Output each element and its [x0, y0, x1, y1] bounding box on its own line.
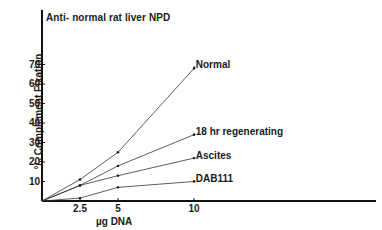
- x-tick-label: 2.5: [65, 203, 95, 214]
- series-line: [42, 158, 194, 201]
- y-tick-label: 20: [20, 156, 40, 167]
- complement-fixation-chart: Anti- normal rat liver NPD °/₀ Complemen…: [0, 0, 382, 230]
- data-point: [79, 184, 81, 186]
- data-point: [117, 151, 119, 153]
- y-tick-label: 40: [20, 117, 40, 128]
- series-line: [42, 68, 194, 201]
- series-label-ascites: .Ascites: [193, 150, 231, 161]
- y-tick-label: 70: [20, 59, 40, 70]
- data-point: [79, 197, 81, 199]
- y-tick-label: 60: [20, 78, 40, 89]
- series-label-normal: .Normal: [193, 59, 230, 70]
- y-tick-label: 10: [20, 176, 40, 187]
- series-label-dab111: .DAB111: [193, 173, 233, 184]
- series-label-18hr-regenerating: .18 hr regenerating: [193, 126, 283, 137]
- data-point: [79, 178, 81, 180]
- y-tick-label: 30: [20, 137, 40, 148]
- y-tick-label: 50: [20, 98, 40, 109]
- plot-area: [0, 0, 382, 230]
- data-point: [117, 165, 119, 167]
- data-point: [117, 174, 119, 176]
- x-tick-label: 10: [179, 203, 209, 214]
- x-tick-label: 5: [103, 203, 133, 214]
- series-line: [42, 135, 194, 201]
- data-point: [117, 186, 119, 188]
- chart-title: Anti- normal rat liver NPD: [46, 12, 170, 23]
- x-axis-label: µg DNA: [96, 216, 132, 227]
